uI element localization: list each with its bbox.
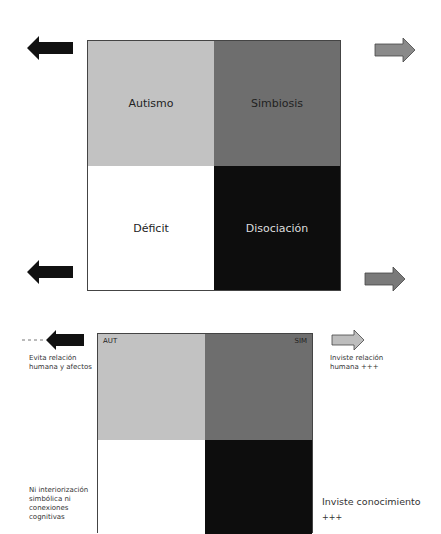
corner-label-sim: SIM xyxy=(294,337,307,345)
note-right-top: Inviste relación humana +++ xyxy=(330,354,383,372)
quadrant-simbiosis: Simbiosis xyxy=(214,41,340,167)
quadrant-deficit: Déficit xyxy=(88,166,215,290)
note-left-top: Evita relación humana y afectos xyxy=(29,354,92,372)
arrow-right-icon xyxy=(365,267,405,291)
arrow-left-icon xyxy=(27,260,73,284)
quadrant-label: Déficit xyxy=(133,222,169,235)
quadrant-label: Disociación xyxy=(246,222,309,235)
note-left-bottom: Ni interiorización simbólica ni conexion… xyxy=(29,486,88,522)
arrow-left-icon xyxy=(27,36,73,60)
bottom-quadrant-grid: AUT SIM xyxy=(97,333,313,533)
quadrant-disociacion: Disociación xyxy=(214,166,340,290)
quadrant-label: Autismo xyxy=(128,97,173,110)
quadrant-deficit xyxy=(98,440,206,534)
arrow-right-icon xyxy=(332,330,364,350)
quadrant-sim: SIM xyxy=(205,334,312,441)
note-right-bottom: Inviste conocimiento +++ xyxy=(322,494,421,526)
arrow-right-icon xyxy=(375,38,415,62)
corner-label-aut: AUT xyxy=(103,337,117,345)
quadrant-aut: AUT xyxy=(98,334,206,441)
dashed-tail-icon xyxy=(22,339,46,341)
arrow-left-icon xyxy=(46,330,84,350)
quadrant-label: Simbiosis xyxy=(251,97,303,110)
quadrant-autismo: Autismo xyxy=(88,41,215,167)
top-quadrant-grid: Autismo Simbiosis Déficit Disociación xyxy=(87,40,341,291)
quadrant-disociacion xyxy=(205,440,312,534)
